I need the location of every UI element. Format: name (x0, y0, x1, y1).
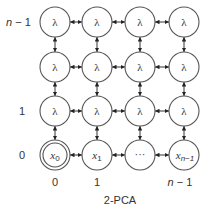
grid-node: λ (169, 96, 199, 126)
edges-group (55, 22, 184, 155)
column-label: 1 (94, 176, 100, 188)
node-label: λ (137, 105, 143, 117)
row-labels-group: n − 110 (6, 16, 31, 161)
grid-node: λ (125, 96, 155, 126)
node-label: λ (137, 16, 143, 28)
grid-node: xn−1 (169, 140, 199, 170)
node-label: λ (52, 105, 58, 117)
column-label: 0 (52, 176, 58, 188)
grid-node: λ (125, 52, 155, 82)
grid-node: x0 (40, 140, 70, 170)
row-label: n − 1 (6, 16, 31, 28)
pca-grid-diagram: λλλλλλλλλλλλx0x1···xn−1 n − 110 01n − 1 … (0, 0, 215, 208)
nodes-group: λλλλλλλλλλλλx0x1···xn−1 (40, 7, 199, 170)
grid-node: λ (82, 7, 112, 37)
node-label: λ (94, 61, 100, 73)
grid-node: λ (125, 7, 155, 37)
grid-node: λ (40, 52, 70, 82)
diagram-caption: 2-PCA (104, 194, 137, 206)
grid-node: λ (40, 96, 70, 126)
grid-node: λ (169, 7, 199, 37)
node-label: λ (52, 16, 58, 28)
grid-node: ··· (125, 140, 155, 170)
node-label: λ (181, 61, 187, 73)
node-label: λ (94, 16, 100, 28)
node-label: λ (181, 105, 187, 117)
grid-node: λ (169, 52, 199, 82)
node-label: λ (94, 105, 100, 117)
column-labels-group: 01n − 1 (52, 176, 192, 188)
node-label: λ (137, 61, 143, 73)
node-label: ··· (135, 148, 146, 160)
row-label: 0 (19, 149, 25, 161)
column-label: n − 1 (168, 176, 193, 188)
grid-node: λ (82, 96, 112, 126)
node-label: λ (181, 16, 187, 28)
grid-node: λ (40, 7, 70, 37)
row-label: 1 (19, 105, 25, 117)
grid-node: x1 (82, 140, 112, 170)
node-label: λ (52, 61, 58, 73)
grid-node: λ (82, 52, 112, 82)
